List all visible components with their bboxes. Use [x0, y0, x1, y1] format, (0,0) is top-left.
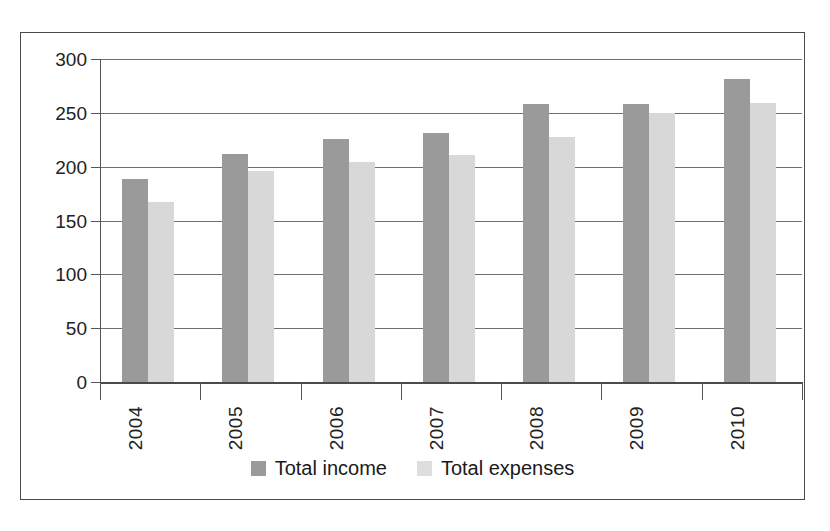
x-axis-line [100, 382, 802, 384]
x-tick-mark [601, 382, 602, 400]
y-tick-mark [91, 274, 100, 275]
bar-group [323, 59, 375, 382]
plot-area: 050100150200250300 200420052006200720082… [100, 59, 802, 382]
x-tick-mark [702, 382, 703, 400]
y-tick-label: 250 [55, 103, 87, 122]
y-tick-mark [91, 59, 100, 60]
y-tick-mark [91, 328, 100, 329]
bar-total-expenses [750, 103, 776, 382]
legend-swatch-total-expenses [417, 461, 432, 476]
legend-label-total-income: Total income [275, 458, 387, 478]
x-tick-mark [401, 382, 402, 400]
legend-swatch-total-income [251, 461, 266, 476]
bar-total-expenses [248, 171, 274, 382]
bar-total-income [222, 154, 248, 382]
bar-total-expenses [148, 202, 174, 382]
x-tick-label-2010: 2010 [728, 406, 747, 450]
y-tick-label: 0 [76, 373, 87, 392]
bar-total-expenses [649, 113, 675, 382]
bar-total-income [122, 179, 148, 382]
y-tick-label: 100 [55, 265, 87, 284]
chart-legend: Total income Total expenses [21, 458, 804, 478]
bar-total-income [323, 139, 349, 382]
y-tick-mark [91, 382, 100, 383]
x-tick-mark [100, 382, 101, 400]
x-tick-label-2009: 2009 [627, 406, 646, 450]
x-tick-label-2006: 2006 [327, 406, 346, 450]
bar-total-expenses [349, 162, 375, 382]
bar-total-expenses [549, 137, 575, 382]
x-tick-label-2005: 2005 [226, 406, 245, 450]
y-tick-label: 200 [55, 157, 87, 176]
x-tick-mark [301, 382, 302, 400]
bar-total-income [523, 104, 549, 382]
x-tick-mark [501, 382, 502, 400]
x-tick-mark [200, 382, 201, 400]
y-tick-mark [91, 167, 100, 168]
bar-group [523, 59, 575, 382]
legend-entry-total-income: Total income [251, 458, 387, 478]
bar-group [423, 59, 475, 382]
chart-figure-frame: 050100150200250300 200420052006200720082… [20, 32, 805, 500]
bar-total-income [423, 133, 449, 382]
legend-entry-total-expenses: Total expenses [417, 458, 574, 478]
bar-total-income [623, 104, 649, 382]
y-tick-mark [91, 113, 100, 114]
x-tick-label-2008: 2008 [527, 406, 546, 450]
bar-group [623, 59, 675, 382]
legend-label-total-expenses: Total expenses [441, 458, 574, 478]
x-tick-mark [802, 382, 803, 400]
y-tick-mark [91, 221, 100, 222]
y-tick-label: 150 [55, 211, 87, 230]
y-tick-label: 50 [66, 319, 87, 338]
bar-total-expenses [449, 155, 475, 382]
y-tick-label: 300 [55, 50, 87, 69]
bar-group [222, 59, 274, 382]
bar-total-income [724, 79, 750, 382]
x-tick-label-2004: 2004 [126, 406, 145, 450]
x-tick-label-2007: 2007 [427, 406, 446, 450]
bar-group [724, 59, 776, 382]
bar-group [122, 59, 174, 382]
y-axis-line [100, 59, 101, 382]
